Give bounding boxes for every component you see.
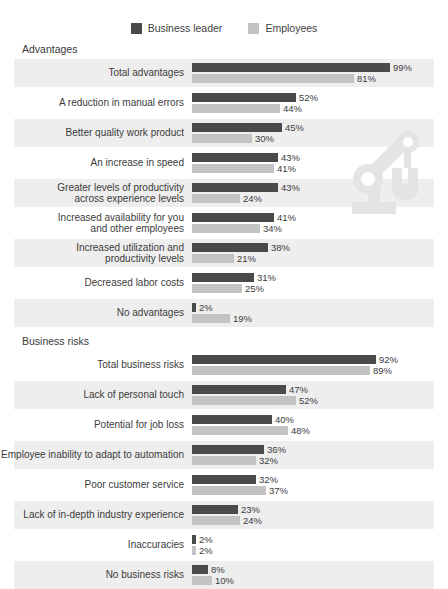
bar-value: 23% <box>241 505 260 514</box>
bar-leader: 36% <box>192 445 448 454</box>
bar-employee: 89% <box>192 366 448 375</box>
row-bars: 43% 41% <box>192 153 448 173</box>
bar-value: 2% <box>199 535 213 544</box>
row-label: Increased availability for you and other… <box>0 212 192 235</box>
row-bars: 92% 89% <box>192 355 448 375</box>
bar-value: 30% <box>255 134 274 143</box>
bar-value: 48% <box>291 426 310 435</box>
bar-employee: 34% <box>192 224 448 233</box>
row-label: Lack of personal touch <box>0 389 192 401</box>
bar-employee: 41% <box>192 164 448 173</box>
bar-value: 99% <box>393 63 412 72</box>
row-label: Inaccuracies <box>0 539 192 551</box>
legend-swatch-icon <box>248 23 259 34</box>
rows-advantages: Total advantages 99% 81% A reduction in … <box>0 59 448 327</box>
bar-value: 8% <box>211 565 225 574</box>
row-label: Total business risks <box>0 359 192 371</box>
row-label: No business risks <box>0 569 192 581</box>
row-bars: 8% 10% <box>192 565 448 585</box>
bar-leader: 47% <box>192 385 448 394</box>
bar-leader: 8% <box>192 565 448 574</box>
chart-row: Lack of in-depth industry experience 23%… <box>0 501 448 529</box>
row-bars: 23% 24% <box>192 505 448 525</box>
legend-label: Business leader <box>148 23 223 34</box>
bar-value: 40% <box>275 415 294 424</box>
row-label: Better quality work product <box>0 127 192 139</box>
bar-employee: 2% <box>192 546 448 555</box>
chart-row: Potential for job loss 40% 48% <box>0 411 448 439</box>
row-bars: 2% 19% <box>192 303 448 323</box>
bar-value: 34% <box>263 224 282 233</box>
bar-value: 92% <box>379 355 398 364</box>
chart-row: No advantages 2% 19% <box>0 299 448 327</box>
bar-value: 2% <box>199 303 213 312</box>
rows-business-risks: Total business risks 92% 89% Lack of per… <box>0 351 448 589</box>
bar-leader: 31% <box>192 273 448 282</box>
row-label: An increase in speed <box>0 157 192 169</box>
bar-value: 43% <box>281 153 300 162</box>
bar-value: 52% <box>299 93 318 102</box>
legend-swatch-icon <box>131 23 142 34</box>
bar-leader: 2% <box>192 303 448 312</box>
row-bars: 31% 25% <box>192 273 448 293</box>
bar-leader: 45% <box>192 123 448 132</box>
row-bars: 36% 32% <box>192 445 448 465</box>
bar-leader: 43% <box>192 153 448 162</box>
bar-value: 38% <box>271 243 290 252</box>
bar-value: 47% <box>289 385 308 394</box>
bar-value: 41% <box>277 213 296 222</box>
bar-value: 45% <box>285 123 304 132</box>
row-label: Greater levels of productivity across ex… <box>0 182 192 205</box>
row-label: A reduction in manual errors <box>0 97 192 109</box>
chart-row: Increased availability for you and other… <box>0 209 448 237</box>
row-bars: 45% 30% <box>192 123 448 143</box>
bar-employee: 81% <box>192 74 448 83</box>
bar-value: 31% <box>257 273 276 282</box>
bar-leader: 43% <box>192 183 448 192</box>
bar-employee: 25% <box>192 284 448 293</box>
row-bars: 43% 24% <box>192 183 448 203</box>
bar-value: 81% <box>357 74 376 83</box>
bar-value: 24% <box>243 516 262 525</box>
row-bars: 40% 48% <box>192 415 448 435</box>
row-bars: 99% 81% <box>192 63 448 83</box>
chart-row: Increased utilization and productivity l… <box>0 239 448 267</box>
section-title: Business risks <box>0 335 448 347</box>
bar-leader: 2% <box>192 535 448 544</box>
section-title: Advantages <box>0 43 448 55</box>
bar-value: 25% <box>245 284 264 293</box>
bar-employee: 21% <box>192 254 448 263</box>
bar-value: 10% <box>215 576 234 585</box>
chart-row: Employee inability to adapt to automatio… <box>0 441 448 469</box>
bar-employee: 52% <box>192 396 448 405</box>
chart-row: Better quality work product 45% 30% <box>0 119 448 147</box>
bar-value: 19% <box>233 314 252 323</box>
bar-value: 43% <box>281 183 300 192</box>
bar-employee: 10% <box>192 576 448 585</box>
chart-row: Decreased labor costs 31% 25% <box>0 269 448 297</box>
section-business-risks: Business risks Total business risks 92% … <box>0 335 448 589</box>
row-label: Total advantages <box>0 67 192 79</box>
row-label: Employee inability to adapt to automatio… <box>0 449 192 461</box>
bar-leader: 41% <box>192 213 448 222</box>
bar-value: 2% <box>199 546 213 555</box>
row-label: No advantages <box>0 307 192 319</box>
bar-leader: 99% <box>192 63 448 72</box>
bar-value: 21% <box>237 254 256 263</box>
bar-value: 32% <box>259 475 278 484</box>
legend-item-employees: Employees <box>248 23 317 34</box>
bar-leader: 92% <box>192 355 448 364</box>
bar-leader: 38% <box>192 243 448 252</box>
section-advantages: Advantages Total advantages 99% 81% A re… <box>0 43 448 327</box>
chart-row: An increase in speed 43% 41% <box>0 149 448 177</box>
legend-label: Employees <box>265 23 317 34</box>
bar-value: 32% <box>259 456 278 465</box>
bar-leader: 40% <box>192 415 448 424</box>
chart-row: Total business risks 92% 89% <box>0 351 448 379</box>
chart-row: A reduction in manual errors 52% 44% <box>0 89 448 117</box>
bar-value: 44% <box>283 104 302 113</box>
bar-employee: 48% <box>192 426 448 435</box>
bar-leader: 32% <box>192 475 448 484</box>
chart-row: Greater levels of productivity across ex… <box>0 179 448 207</box>
